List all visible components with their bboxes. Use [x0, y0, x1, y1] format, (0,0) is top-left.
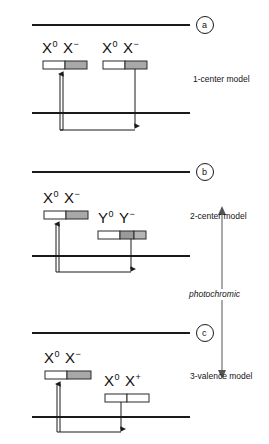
species-b-right-symbol1: Y — [98, 209, 109, 226]
species-b-left-symbol1: X — [43, 189, 54, 206]
species-b-left-symbol2: X — [64, 189, 75, 206]
species-b-left-sup2: − — [75, 189, 81, 199]
species-label-c-left: X0X− — [44, 350, 81, 365]
model-label-c: 3-valence model — [190, 372, 252, 381]
panel-a-left-level-neutral — [43, 61, 65, 69]
panel-a-group — [32, 17, 214, 131]
species-c-right-symbol2: X — [125, 372, 136, 389]
species-c-left-sup1: 0 — [55, 349, 61, 359]
species-c-right-symbol1: X — [104, 372, 115, 389]
species-a-left-symbol1: X — [42, 39, 53, 56]
species-b-left-sup1: 0 — [54, 189, 60, 199]
species-c-right-sup2: + — [136, 372, 142, 382]
band-diagram-figure: a b c 1-center model 2-center model 3-va… — [0, 0, 269, 444]
panel-b-y-level-mid — [120, 231, 134, 239]
panel-c-xplus-level-charged — [127, 394, 149, 402]
model-label-b: 2-center model — [190, 212, 247, 221]
species-c-left-symbol2: X — [65, 349, 76, 366]
species-a-right-sup1: 0 — [113, 39, 119, 49]
panel-a-left-level-charged — [65, 61, 87, 69]
panel-c-xplus-level-neutral — [105, 394, 127, 402]
species-label-a-right: X0X− — [102, 40, 139, 55]
panel-a-marker-label: a — [202, 21, 207, 30]
species-a-right-symbol2: X — [123, 39, 134, 56]
species-label-b-right: Y0Y− — [98, 210, 135, 225]
species-a-left-symbol2: X — [63, 39, 74, 56]
species-b-right-sup2: − — [130, 209, 136, 219]
species-a-right-symbol1: X — [102, 39, 113, 56]
species-a-left-sup2: − — [74, 39, 80, 49]
panel-a-right-level-charged — [125, 61, 147, 69]
photochromic-label: photochromic — [187, 289, 242, 300]
species-c-left-symbol1: X — [44, 349, 55, 366]
panel-c-xminus-level-neutral — [45, 371, 67, 379]
panel-b-marker-label: b — [202, 168, 207, 177]
panel-c-xminus-level-charged — [67, 371, 91, 379]
panel-b-x-level-neutral — [44, 211, 66, 219]
panel-b-y-level-charged — [134, 231, 146, 239]
species-label-b-left: X0X− — [43, 190, 80, 205]
species-a-right-sup2: − — [134, 39, 140, 49]
species-label-a-left: X0X− — [42, 40, 79, 55]
panel-b-y-level-neutral — [98, 231, 120, 239]
model-label-a: 1-center model — [193, 75, 250, 84]
species-c-left-sup2: − — [76, 349, 82, 359]
species-b-right-sup1: 0 — [109, 209, 115, 219]
panel-a-right-level-neutral — [103, 61, 125, 69]
panel-b-x-level-charged — [66, 211, 88, 219]
species-a-left-sup1: 0 — [53, 39, 59, 49]
species-b-right-symbol2: Y — [119, 209, 130, 226]
species-c-right-sup1: 0 — [115, 372, 121, 382]
panel-c-marker-label: c — [202, 329, 207, 338]
species-label-c-right: X0X+ — [104, 373, 141, 388]
